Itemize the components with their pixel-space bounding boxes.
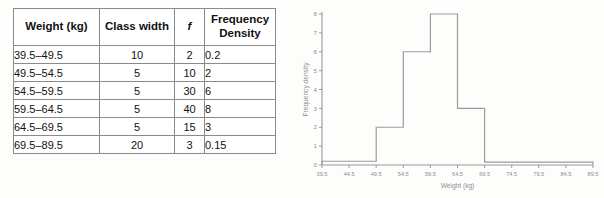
cell-class-width: 5 <box>100 64 175 82</box>
cell-class-width: 5 <box>100 82 175 100</box>
table-row: 54.5–59.5 5 30 6 <box>14 82 276 100</box>
x-tick-label: 69.5 <box>479 171 490 177</box>
cell-weight: 59.5–64.5 <box>14 100 100 118</box>
frequency-table: Weight (kg) Class width f Frequency Dens… <box>13 8 276 154</box>
cell-class-width: 5 <box>100 100 175 118</box>
x-tick-label: 39.5 <box>317 171 328 177</box>
x-axis-title: Weight (kg) <box>441 182 475 190</box>
table-row: 59.5–64.5 5 40 8 <box>14 100 276 118</box>
cell-frequency: 3 <box>175 136 205 154</box>
y-axis-group: 012345678 Frequency density <box>302 10 322 168</box>
cell-class-width: 10 <box>100 46 175 64</box>
cell-frequency: 15 <box>175 118 205 136</box>
cell-weight: 39.5–49.5 <box>14 46 100 64</box>
cell-frequency-density: 0.2 <box>205 46 276 64</box>
table-row: 39.5–49.5 10 2 0.2 <box>14 46 276 64</box>
histogram-chart: 012345678 Frequency density 39.544.549.5… <box>300 4 600 198</box>
x-axis-group: 39.544.549.554.559.564.569.574.579.584.5… <box>317 165 599 190</box>
y-tick-label: 4 <box>314 86 318 93</box>
table-row: 64.5–69.5 5 15 3 <box>14 118 276 136</box>
y-tick-label: 8 <box>314 10 318 17</box>
column-header-frequency-density-line1: Frequency <box>211 13 269 25</box>
y-tick-label: 0 <box>314 161 318 168</box>
cell-weight: 69.5–89.5 <box>14 136 100 154</box>
x-tick-label: 44.5 <box>344 171 355 177</box>
histogram-svg: 012345678 Frequency density 39.544.549.5… <box>300 4 600 198</box>
cell-frequency: 2 <box>175 46 205 64</box>
table-row: 69.5–89.5 20 3 0.15 <box>14 136 276 154</box>
y-tick-label: 1 <box>314 142 318 149</box>
column-header-class-width: Class width <box>100 9 175 46</box>
cell-frequency-density: 2 <box>205 64 276 82</box>
cell-frequency-density: 3 <box>205 118 276 136</box>
table-row: 49.5–54.5 5 10 2 <box>14 64 276 82</box>
cell-class-width: 5 <box>100 118 175 136</box>
y-tick-label: 7 <box>314 29 318 36</box>
cell-weight: 49.5–54.5 <box>14 64 100 82</box>
x-tick-label: 59.5 <box>425 171 436 177</box>
cell-class-width: 20 <box>100 136 175 154</box>
frequency-table-container: Weight (kg) Class width f Frequency Dens… <box>13 8 275 154</box>
cell-frequency-density: 8 <box>205 100 276 118</box>
x-tick-label: 89.5 <box>588 171 599 177</box>
x-tick-label: 84.5 <box>560 171 571 177</box>
x-tick-label: 79.5 <box>533 171 544 177</box>
histogram-bars <box>322 14 593 165</box>
x-axis-ticks: 39.544.549.554.559.564.569.574.579.584.5… <box>317 165 599 177</box>
x-tick-label: 49.5 <box>371 171 382 177</box>
y-tick-label: 5 <box>314 67 318 74</box>
y-axis-ticks: 012345678 <box>314 10 322 168</box>
x-tick-label: 54.5 <box>398 171 409 177</box>
x-tick-label: 64.5 <box>452 171 463 177</box>
histogram-outline <box>322 14 593 165</box>
cell-weight: 64.5–69.5 <box>14 118 100 136</box>
column-header-frequency-density: Frequency Density <box>205 9 276 46</box>
cell-frequency: 10 <box>175 64 205 82</box>
cell-frequency-density: 6 <box>205 82 276 100</box>
y-tick-label: 6 <box>314 48 318 55</box>
cell-frequency: 40 <box>175 100 205 118</box>
y-tick-label: 2 <box>314 123 318 130</box>
cell-frequency-density: 0.15 <box>205 136 276 154</box>
column-header-weight: Weight (kg) <box>14 9 100 46</box>
column-header-frequency-density-line2: Density <box>219 27 261 39</box>
cell-frequency: 30 <box>175 82 205 100</box>
y-tick-label: 3 <box>314 105 318 112</box>
table-header-row: Weight (kg) Class width f Frequency Dens… <box>14 9 276 46</box>
column-header-frequency: f <box>175 9 205 46</box>
cell-weight: 54.5–59.5 <box>14 82 100 100</box>
y-axis-title: Frequency density <box>302 62 310 117</box>
table-body: 39.5–49.5 10 2 0.2 49.5–54.5 5 10 2 54.5… <box>14 46 276 154</box>
x-tick-label: 74.5 <box>506 171 517 177</box>
table-header: Weight (kg) Class width f Frequency Dens… <box>14 9 276 46</box>
